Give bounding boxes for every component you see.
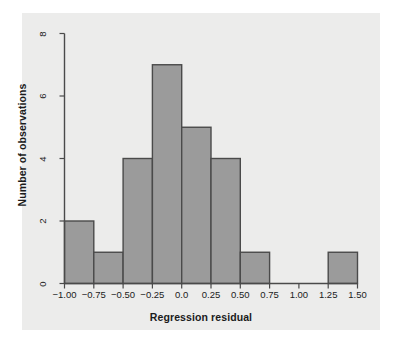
x-tick-label: −0.75	[82, 289, 106, 300]
bars-group	[65, 65, 358, 284]
y-axis-title: Number of observations	[16, 84, 28, 207]
x-axis-title: Regression residual	[0, 311, 402, 323]
x-tick-label: 0.25	[202, 289, 221, 300]
x-tick-label: −1.00	[52, 289, 76, 300]
histogram-bar	[240, 252, 269, 283]
histogram-bar	[328, 252, 357, 283]
x-tick-label: 1.25	[319, 289, 338, 300]
histogram-bar	[182, 127, 211, 283]
x-tick-label: 1.50	[348, 289, 367, 300]
x-tick-label: 0.50	[231, 289, 250, 300]
y-axis-title-wrap: Number of observations	[0, 0, 44, 290]
x-tick-label: −0.25	[140, 289, 164, 300]
x-tick-label: 0.0	[175, 289, 188, 300]
x-tick-label: 0.75	[260, 289, 279, 300]
x-tick-label: 1.00	[290, 289, 309, 300]
histogram-figure: −1.00−0.75−0.50−0.250.00.250.500.751.001…	[0, 0, 402, 351]
x-tick-label: −0.50	[111, 289, 135, 300]
histogram-bar	[94, 252, 123, 283]
histogram-bar	[123, 159, 152, 284]
histogram-bar	[152, 65, 181, 284]
histogram-bar	[65, 221, 94, 284]
histogram-bar	[211, 159, 240, 284]
